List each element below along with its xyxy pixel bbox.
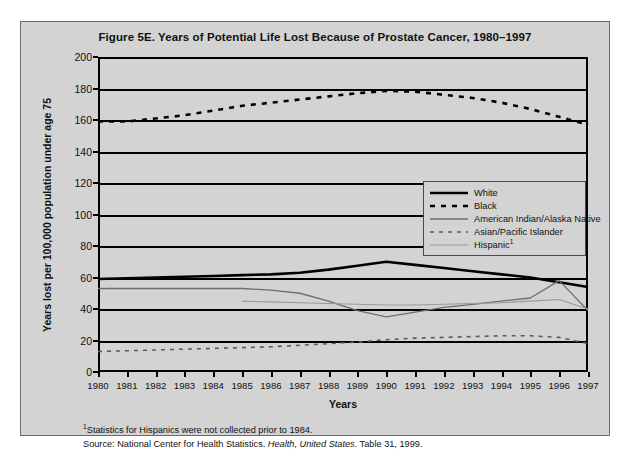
y-tick-label: 160 (74, 114, 92, 126)
x-tick-mark (386, 372, 388, 377)
x-tick-label: 1993 (462, 380, 483, 391)
x-tick-label: 1992 (433, 380, 454, 391)
x-tick-mark (444, 372, 446, 377)
x-tick-label: 1989 (347, 380, 368, 391)
x-tick-label: 1995 (520, 380, 541, 391)
legend-line-solid-gray (429, 213, 469, 225)
legend-label: White (474, 188, 498, 198)
x-tick-mark (242, 372, 244, 377)
x-tick-mark (213, 372, 215, 377)
series-line (98, 281, 588, 317)
legend-label: Asian/Pacific Islander (474, 227, 563, 237)
legend-line-dashed-black (429, 200, 469, 212)
x-tick-label: 1990 (376, 380, 397, 391)
y-tick-label: 60 (80, 272, 92, 284)
x-tick-label: 1997 (577, 380, 598, 391)
x-tick-mark (329, 372, 331, 377)
x-tick-label: 1994 (491, 380, 512, 391)
legend-item: Hispanic1 (429, 238, 580, 251)
x-tick-mark (502, 372, 504, 377)
x-tick-mark (588, 372, 590, 377)
x-tick-label: 1982 (145, 380, 166, 391)
x-tick-label: 1984 (203, 380, 224, 391)
x-tick-label: 1988 (318, 380, 339, 391)
y-tick-label: 120 (74, 177, 92, 189)
footnote-hispanic: 1Statistics for Hispanics were not colle… (83, 420, 422, 437)
legend-item: White (429, 186, 580, 199)
y-tick-label: 100 (74, 209, 92, 221)
source-prefix: Source: National Center for Health Stati… (83, 439, 268, 449)
x-tick-label: 1991 (404, 380, 425, 391)
x-tick-label: 1996 (549, 380, 570, 391)
x-tick-mark (156, 372, 158, 377)
x-tick-mark (271, 372, 273, 377)
x-axis-label: Years (98, 398, 588, 410)
footnotes: 1Statistics for Hispanics were not colle… (83, 420, 422, 451)
legend-item: Asian/Pacific Islander (429, 225, 580, 238)
figure-page: Figure 5E. Years of Potential Life Lost … (0, 0, 631, 469)
footnote-text: Statistics for Hispanics were not collec… (87, 425, 313, 435)
series-line (98, 262, 588, 287)
legend-label: Black (474, 201, 497, 211)
x-tick-label: 1980 (87, 380, 108, 391)
x-tick-label: 1986 (260, 380, 281, 391)
y-tick-label: 140 (74, 146, 92, 158)
legend-line-solid-black (429, 187, 469, 199)
legend-line-solid-lightgray (429, 239, 469, 251)
legend-label-footnote-marker: 1 (510, 238, 514, 245)
x-tick-mark (127, 372, 129, 377)
chart-legend: WhiteBlackAmerican Indian/Alaska NativeA… (423, 181, 586, 256)
source-suffix: Table 31, 1999. (357, 439, 422, 449)
y-tick-label: 200 (74, 51, 92, 63)
source-line: Source: National Center for Health Stati… (83, 437, 422, 451)
series-line (98, 91, 588, 125)
y-tick-label: 40 (80, 303, 92, 315)
x-tick-mark (530, 372, 532, 377)
x-tick-label: 1981 (116, 380, 137, 391)
x-tick-label: 1987 (289, 380, 310, 391)
y-tick-label: 80 (80, 240, 92, 252)
x-tick-mark (300, 372, 302, 377)
x-tick-label: 1983 (174, 380, 195, 391)
x-tick-mark (415, 372, 417, 377)
x-tick-mark (473, 372, 475, 377)
source-publication: Health, United States. (268, 439, 357, 449)
y-tick-label: 20 (80, 335, 92, 347)
x-tick-mark (559, 372, 561, 377)
y-tick-label: 0 (86, 366, 92, 378)
x-tick-mark (184, 372, 186, 377)
legend-item: American Indian/Alaska Native (429, 212, 580, 225)
page-title: Figure 5E. Years of Potential Life Lost … (21, 31, 609, 43)
legend-item: Black (429, 199, 580, 212)
legend-line-dashed-gray (429, 226, 469, 238)
x-tick-label: 1985 (231, 380, 252, 391)
y-axis-label: Years lost per 100,000 population under … (41, 98, 53, 332)
y-tick-label: 180 (74, 83, 92, 95)
legend-label: Hispanic1 (474, 238, 513, 250)
figure-panel: Figure 5E. Years of Potential Life Lost … (20, 21, 610, 436)
x-tick-mark (98, 372, 100, 377)
series-line (98, 336, 588, 352)
series-line (242, 300, 588, 309)
x-tick-mark (357, 372, 359, 377)
legend-label: American Indian/Alaska Native (474, 214, 601, 224)
